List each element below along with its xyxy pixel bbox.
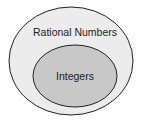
- integers-label: Integers: [56, 70, 94, 82]
- rational-numbers-label: Rational Numbers: [33, 26, 117, 38]
- venn-diagram: Rational Numbers Integers: [0, 0, 143, 123]
